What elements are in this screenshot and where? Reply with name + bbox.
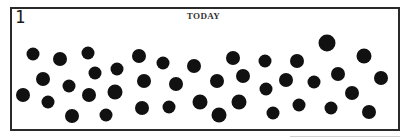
dot bbox=[100, 109, 113, 122]
dot bbox=[111, 63, 124, 76]
dot bbox=[232, 95, 247, 110]
dot bbox=[279, 73, 293, 87]
dot bbox=[53, 52, 67, 66]
dot bbox=[259, 55, 272, 68]
dot bbox=[42, 96, 55, 109]
dot bbox=[325, 102, 338, 115]
dot bbox=[108, 85, 123, 100]
dot bbox=[319, 35, 336, 52]
dot bbox=[89, 67, 102, 80]
dot bbox=[135, 101, 149, 115]
dot bbox=[187, 59, 201, 73]
dot bbox=[236, 69, 250, 83]
dot bbox=[169, 77, 183, 91]
dot bbox=[210, 74, 224, 88]
dot bbox=[308, 76, 321, 89]
dot bbox=[267, 107, 280, 120]
dot bbox=[63, 80, 76, 93]
dot bbox=[193, 95, 208, 110]
dot bbox=[290, 54, 304, 68]
dot bbox=[226, 51, 240, 65]
dot bbox=[345, 86, 359, 100]
dot bbox=[362, 105, 376, 119]
dot bbox=[157, 57, 170, 70]
dot bbox=[357, 49, 372, 64]
dot bbox=[293, 99, 306, 112]
page-edge-line bbox=[290, 136, 400, 137]
dot bbox=[65, 109, 79, 123]
dot bbox=[16, 88, 30, 102]
dot bbox=[374, 71, 388, 85]
dot bbox=[212, 108, 227, 123]
dot bbox=[27, 48, 40, 61]
dot bbox=[331, 67, 345, 81]
dot bbox=[82, 47, 95, 60]
dot-field bbox=[0, 0, 407, 139]
dot bbox=[137, 74, 151, 88]
dot bbox=[163, 101, 176, 114]
dot bbox=[132, 49, 146, 63]
dot bbox=[82, 88, 96, 102]
dot bbox=[36, 72, 50, 86]
dot bbox=[260, 83, 273, 96]
